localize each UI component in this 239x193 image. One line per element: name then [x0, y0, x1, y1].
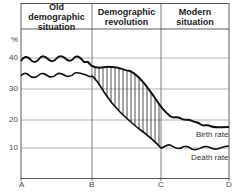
x-label-d: D — [226, 180, 232, 189]
death-rate-label: Death rate — [191, 153, 228, 162]
header-old-demographic-situation: Old demographic situation — [21, 4, 92, 29]
natural-increase-hatching — [95, 60, 159, 160]
header-modern-situation: Modern situation — [161, 4, 229, 29]
y-tick-40: 40 — [2, 53, 18, 62]
y-tick-30: 30 — [2, 84, 18, 93]
y-tick-20: 20 — [2, 115, 18, 124]
x-label-b: B — [89, 180, 94, 189]
x-label-c: C — [158, 180, 164, 189]
y-axis-unit: % — [2, 35, 18, 44]
y-tick-10: 10 — [2, 143, 18, 152]
birth-rate-label: Birth rate — [196, 130, 228, 139]
header-demographic-revolution: Demographic revolution — [92, 4, 161, 29]
x-label-a: A — [19, 180, 24, 189]
